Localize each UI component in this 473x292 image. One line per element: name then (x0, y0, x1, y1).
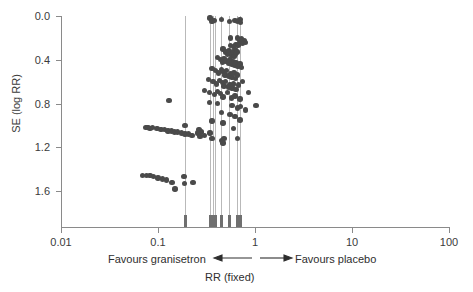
data-point (229, 103, 234, 108)
data-point (172, 186, 177, 191)
x-tick-4 (449, 228, 450, 233)
data-point (238, 20, 243, 25)
x-tick-label-0: 0.01 (41, 237, 81, 248)
data-point (221, 136, 226, 141)
data-point (253, 103, 258, 108)
reference-line (215, 16, 216, 227)
x-axis-title: RR (fixed) (205, 271, 255, 283)
reference-line-foot (184, 215, 187, 227)
data-point (246, 90, 251, 95)
data-point (164, 177, 169, 182)
data-point (219, 110, 224, 115)
data-point (220, 120, 225, 125)
x-tick-label-4: 100 (429, 237, 469, 248)
reference-line (185, 16, 186, 227)
data-point (240, 79, 245, 84)
data-point (228, 35, 233, 40)
x-tick-1 (158, 228, 159, 233)
plot-area (0, 0, 473, 292)
y-tick-label-2: 0.8 (24, 99, 50, 110)
data-point (237, 96, 242, 101)
y-tick-label-1: 0.4 (24, 55, 50, 66)
data-point (182, 123, 187, 128)
x-tick-0 (61, 228, 62, 233)
data-point (220, 94, 225, 99)
y-axis-line (61, 16, 62, 228)
data-point (215, 101, 220, 106)
reference-line-foot (228, 215, 231, 227)
data-point (190, 180, 195, 185)
y-tick-4 (56, 191, 61, 192)
data-point (234, 49, 239, 54)
data-point (209, 118, 214, 123)
data-point (219, 17, 224, 22)
y-tick-label-0: 0.0 (24, 11, 50, 22)
data-point (231, 126, 236, 131)
data-point (237, 117, 242, 122)
y-tick-label-3: 1.2 (24, 142, 50, 153)
x-tick-label-1: 0.1 (138, 237, 178, 248)
data-point (212, 18, 217, 23)
favours-placebo-label: Favours placebo (295, 253, 376, 265)
data-point (182, 181, 187, 186)
y-axis-title: SE (log RR) (11, 64, 22, 144)
data-point (235, 72, 240, 77)
data-point (166, 98, 171, 103)
x-tick-label-2: 1 (235, 237, 275, 248)
reference-line-foot (214, 215, 217, 227)
x-tick-label-3: 10 (332, 237, 372, 248)
data-point (207, 100, 212, 105)
data-point (239, 65, 244, 70)
reference-line-foot (239, 215, 242, 227)
data-point (202, 133, 207, 138)
y-tick-label-4: 1.6 (24, 186, 50, 197)
data-point (240, 41, 245, 46)
funnel-plot-figure: 0.0 0.4 0.8 1.2 1.6 SE (log RR) 0.01 0.1… (0, 0, 473, 292)
data-point (169, 180, 174, 185)
data-point (209, 136, 214, 141)
x-tick-3 (352, 228, 353, 233)
favours-granisetron-label: Favours granisetron (108, 253, 206, 265)
data-point (243, 107, 248, 112)
y-tick-0 (56, 16, 61, 17)
y-tick-3 (56, 147, 61, 148)
reference-line-foot (220, 215, 223, 227)
y-tick-2 (56, 104, 61, 105)
y-tick-1 (56, 60, 61, 61)
x-tick-2 (255, 228, 256, 233)
data-point (207, 130, 212, 135)
